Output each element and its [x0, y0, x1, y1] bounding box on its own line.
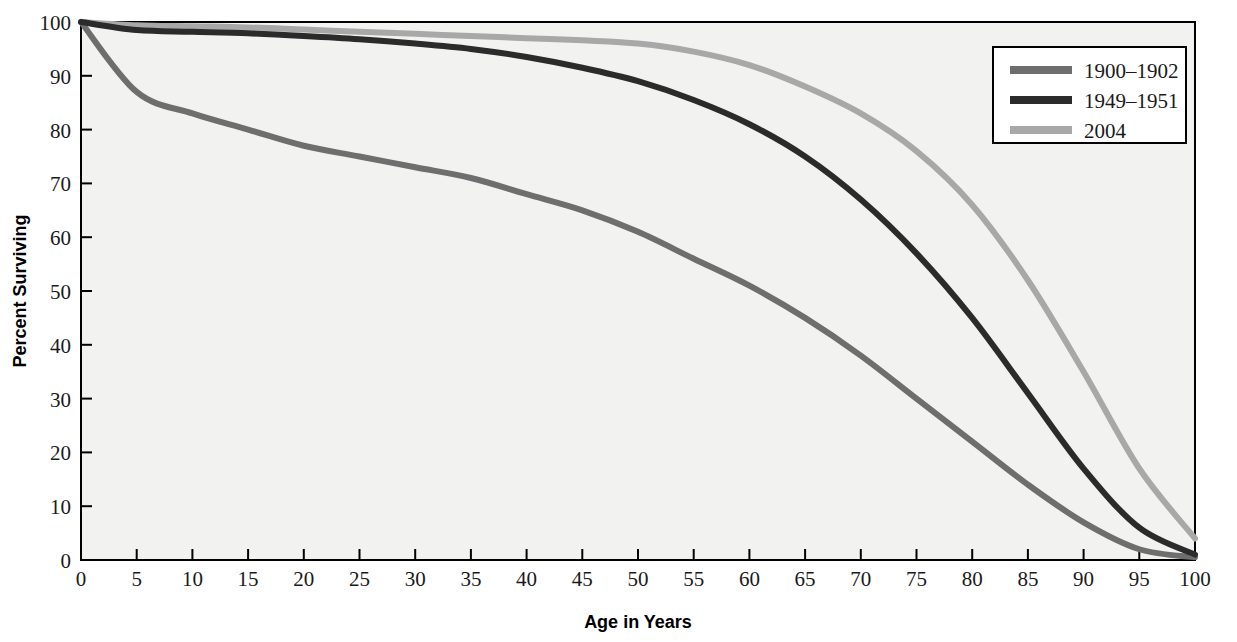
chart-canvas: 0510152025303540455055606570758085909510… — [0, 0, 1237, 642]
y-tick-label: 70 — [50, 172, 71, 196]
y-tick-label: 100 — [40, 11, 72, 35]
x-tick-label: 20 — [293, 567, 314, 591]
x-tick-label: 50 — [628, 567, 649, 591]
x-tick-label: 95 — [1129, 567, 1150, 591]
y-tick-label: 20 — [50, 441, 71, 465]
x-tick-label: 0 — [76, 567, 87, 591]
x-tick-label: 40 — [516, 567, 537, 591]
x-tick-label: 55 — [683, 567, 704, 591]
legend-label: 1900–1902 — [1084, 59, 1179, 83]
x-tick-label: 75 — [906, 567, 927, 591]
y-tick-label: 80 — [50, 119, 71, 143]
chart-legend: 1900–19021949–19512004 — [993, 47, 1186, 143]
y-tick-label: 30 — [50, 388, 71, 412]
legend-label: 1949–1951 — [1084, 89, 1179, 113]
x-tick-label: 25 — [349, 567, 370, 591]
x-tick-label: 45 — [572, 567, 593, 591]
survival-curve-figure: 0510152025303540455055606570758085909510… — [0, 0, 1237, 642]
y-tick-label: 40 — [50, 334, 71, 358]
y-tick-label: 50 — [50, 280, 71, 304]
y-axis-tick-labels: 0102030405060708090100 — [40, 11, 72, 573]
x-axis-title: Age in Years — [584, 612, 692, 632]
x-tick-label: 30 — [405, 567, 426, 591]
x-tick-label: 65 — [795, 567, 816, 591]
y-tick-label: 90 — [50, 65, 71, 89]
x-tick-label: 90 — [1073, 567, 1094, 591]
x-tick-label: 35 — [460, 567, 481, 591]
x-tick-label: 100 — [1179, 567, 1211, 591]
y-tick-label: 0 — [61, 549, 72, 573]
y-tick-label: 10 — [50, 495, 71, 519]
x-axis-tick-labels: 0510152025303540455055606570758085909510… — [76, 567, 1211, 591]
x-tick-label: 80 — [962, 567, 983, 591]
x-tick-label: 10 — [182, 567, 203, 591]
x-axis-tick-marks — [81, 549, 1195, 560]
x-tick-label: 5 — [131, 567, 142, 591]
x-tick-label: 60 — [739, 567, 760, 591]
x-tick-label: 85 — [1017, 567, 1038, 591]
legend-label: 2004 — [1084, 119, 1127, 143]
y-tick-label: 60 — [50, 226, 71, 250]
x-tick-label: 70 — [850, 567, 871, 591]
x-tick-label: 15 — [238, 567, 259, 591]
y-axis-title: Percent Surviving — [10, 214, 30, 367]
